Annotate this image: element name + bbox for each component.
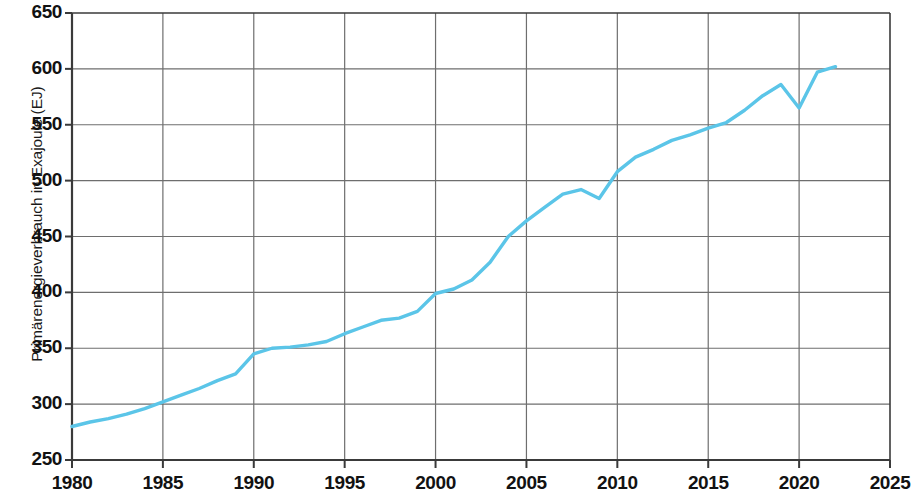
data-series-line <box>72 67 835 427</box>
primary-energy-consumption-line-chart: Primärenergieverbrauch in Exajoule (EJ) … <box>0 0 914 499</box>
chart-plot-area <box>0 0 914 499</box>
tick-marks-group <box>65 13 890 468</box>
data-series-group <box>72 67 835 427</box>
gridlines-group <box>72 13 890 460</box>
